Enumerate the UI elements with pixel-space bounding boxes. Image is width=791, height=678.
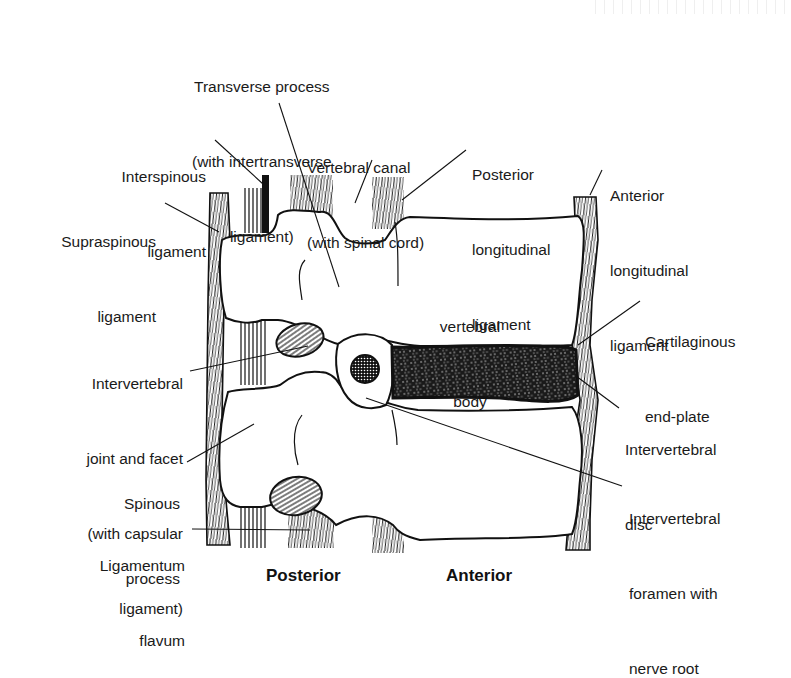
anterior-direction-label: Anterior: [446, 566, 512, 586]
label-ligamentum-flavum: Ligamentum flavum: [60, 503, 185, 678]
label-vertebral-canal: Vertebral canal (with spinal cord): [307, 105, 424, 280]
posterior-direction-label: Posterior: [266, 566, 341, 586]
label-vertebral-body: vertebral body: [420, 264, 520, 439]
nerve-root-shape: [351, 355, 379, 383]
label-intervertebral-foramen: Intervertebral foramen with nerve root: [629, 456, 720, 678]
